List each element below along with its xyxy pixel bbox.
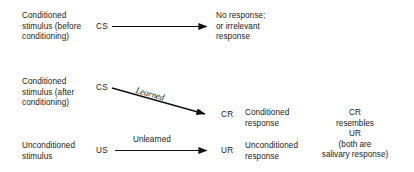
row-unconditioned-stimulus-code: US (96, 146, 108, 157)
row-unconditioned-outcome-label: Unconditioned response (245, 141, 298, 162)
row-before-stimulus-code: CS (96, 22, 108, 33)
row-before-outcome-label: No response; or irrelevant response (216, 11, 265, 43)
row-before-stimulus-label: Conditioned stimulus (before conditionin… (22, 11, 81, 43)
arrow-label-unlearned: Unlearned (133, 135, 171, 144)
row-after-stimulus-label: Conditioned stimulus (after conditioning… (22, 77, 74, 109)
row-after-stimulus-code: CS (96, 83, 108, 94)
row-after-response-code: CR (221, 110, 233, 121)
classical-conditioning-diagram: Conditioned stimulus (before conditionin… (0, 0, 414, 172)
resemblance-note: CR resembles UR (both are salivary respo… (298, 108, 412, 161)
row-unconditioned-response-code: UR (221, 146, 233, 157)
row-after-outcome-label: Conditioned response (245, 108, 289, 129)
row-unconditioned-stimulus-label: Unconditioned stimulus (22, 141, 75, 162)
